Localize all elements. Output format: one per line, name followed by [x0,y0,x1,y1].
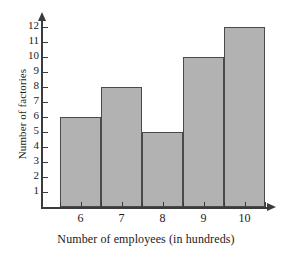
x-axis-tick [81,202,82,208]
x-axis-tick [224,202,225,208]
x-axis-tick [142,202,143,208]
y-axis-tick-label: 2 [34,169,40,181]
y-axis-tick-label: 11 [28,34,39,46]
x-axis-tick-label: 7 [102,211,142,226]
bar-series [41,8,279,207]
bar [224,27,265,207]
x-axis-tick-label: 6 [61,211,101,226]
x-axis-tick [204,202,205,208]
bar [183,57,224,207]
x-axis-tick [101,202,102,208]
y-axis-tick-label: 6 [34,109,40,121]
y-axis-tick-label: 9 [34,64,40,76]
y-axis-tick-label: 5 [34,124,40,136]
x-axis-tick [122,202,123,208]
plot-area: 121110987654321 678910 [41,8,279,205]
y-axis-tick-label: 10 [28,49,39,61]
x-axis-title: Number of employees (in hundreds) [0,232,292,247]
x-axis-line [41,207,269,209]
bar [142,132,183,207]
y-axis-title: Number of factories [16,34,28,194]
x-axis-tick [265,202,266,208]
x-axis-tick-label: 8 [143,211,183,226]
y-axis-tick-label: 3 [34,154,40,166]
y-axis-tick-label: 4 [34,139,40,151]
x-axis-tick [245,202,246,208]
x-axis-tick [183,202,184,208]
y-axis-tick-label: 7 [34,94,40,106]
y-axis-tick-label: 12 [28,19,39,31]
x-axis-tick [60,202,61,208]
y-axis-tick-label: 1 [34,184,40,196]
x-axis-tick-label: 9 [184,211,224,226]
bar [101,87,142,207]
x-axis-tick [163,202,164,208]
histogram-figure: Number of factories 121110987654321 6789… [0,0,292,254]
x-axis-tick-label: 10 [225,211,265,226]
y-axis-tick-label: 8 [34,79,40,91]
bar [60,117,101,207]
